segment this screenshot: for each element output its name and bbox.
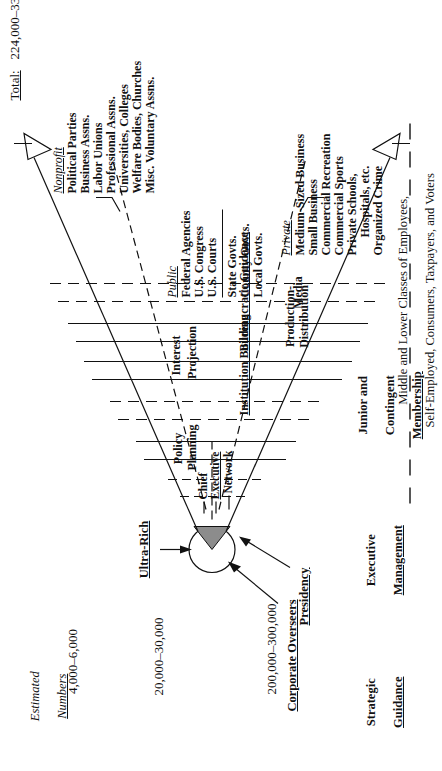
public-heading: Public	[166, 266, 179, 297]
presidency-leader	[244, 539, 290, 567]
private-heading: Private	[280, 220, 293, 255]
nonprofit-item: Business Assns.	[79, 114, 92, 193]
upper-arrowhead	[24, 133, 51, 159]
private-item: Private Schools,	[346, 173, 359, 255]
public-item: State Govts.	[226, 235, 239, 297]
tier-label-strategic-guidance: Strategic Guidance	[352, 663, 419, 753]
tier-label-executive-management: Executive Management	[352, 511, 419, 621]
public-items-divider	[222, 209, 223, 297]
total-label: Total:	[8, 70, 22, 100]
mass-base-caption: Middle and Lower Classes of Employees, S…	[384, 141, 442, 471]
presidency-arrowhead	[239, 536, 251, 546]
estimate-value-3: 200,000–300,000	[265, 576, 279, 721]
label-chief: Chief	[197, 472, 209, 499]
estimate-value-1: 4,000–6,000	[66, 601, 80, 721]
tier-strategic-line1: Strategic	[364, 678, 378, 726]
tier-junior-line1: Junior and	[356, 376, 370, 434]
public-item: County Govts.	[239, 223, 252, 297]
nonprofit-item: Universities, Colleges	[118, 84, 131, 193]
label-executive: Executive	[209, 451, 221, 499]
private-item: Small Business	[307, 179, 320, 255]
private-item: Organized Crime	[372, 165, 385, 255]
label-network: Network	[222, 450, 234, 493]
nonprofit-hook	[96, 197, 120, 211]
tier-executive-line2: Management	[391, 525, 405, 595]
nonprofit-item: Welfare Bodies, Churches	[131, 60, 144, 193]
estimate-value-2: 20,000–30,000	[152, 591, 166, 721]
nonprofit-item: Political Parties	[66, 112, 79, 193]
tier-executive-line1: Executive	[364, 534, 378, 586]
public-item: Local Govts.	[252, 232, 265, 297]
band-label-policy: Policy	[172, 425, 185, 471]
band-label-planning: Planning	[186, 417, 199, 477]
band-label-projection: Projection	[186, 317, 199, 387]
corporate-overseers-arrowhead	[228, 561, 241, 572]
nonprofit-item: Misc. Voluntary Assns.	[144, 76, 157, 193]
mass-base-line2: Self-Employed, Consumers, Taxpayers, and…	[423, 173, 437, 427]
estimated-numbers-line1: Estimated	[28, 671, 42, 721]
public-item: U.S. Congress	[193, 226, 206, 297]
nonprofit-heading: Nonprofit	[52, 147, 65, 193]
private-item: Hospitals, etc.	[359, 165, 372, 237]
tier-strategic-line2: Guidance	[391, 676, 405, 727]
private-item: Medium-Sized Business	[294, 133, 307, 255]
label-presidency: Presidency	[298, 567, 311, 625]
band-label-interest: Interest	[170, 327, 183, 383]
private-item: Commercial Sports	[333, 156, 346, 255]
label-ultra-rich: Ultra-Rich	[138, 503, 151, 595]
total-value: 224,000–336,000 *	[8, 0, 22, 59]
band-label-media: Media	[292, 265, 305, 319]
mass-base-line1: Middle and Lower Classes of Employees,	[396, 195, 410, 404]
private-item: Commercial Recreation	[320, 133, 333, 255]
public-item: Federal Agencies	[180, 210, 193, 297]
nonprofit-item: Labor Unions	[92, 122, 105, 193]
public-item: U.S. Courts	[206, 237, 219, 297]
nonprofit-item: Professional Assns.	[105, 96, 118, 193]
